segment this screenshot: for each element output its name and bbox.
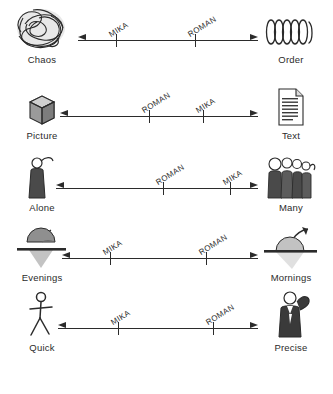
marker-label-mika: MIKA bbox=[101, 238, 124, 257]
marker-label-roman: ROMAN bbox=[154, 163, 186, 187]
document-page-icon bbox=[251, 82, 331, 128]
marker-label-roman: ROMAN bbox=[197, 233, 229, 257]
pole-right-label: Precise bbox=[251, 342, 331, 353]
marker-label-roman: ROMAN bbox=[140, 91, 172, 115]
pole-right: Precise bbox=[251, 294, 331, 353]
diagram-canvas: Chaos MIKA ROMAN bbox=[0, 0, 333, 394]
marker-label-mika: MIKA bbox=[109, 308, 132, 327]
pole-right-label: Text bbox=[251, 130, 331, 141]
marker-label-mika: MIKA bbox=[221, 168, 244, 187]
crowd-of-people-icon bbox=[251, 154, 331, 200]
pole-right: Text bbox=[251, 82, 331, 141]
pole-right: Many bbox=[251, 154, 331, 213]
marker-label-roman: ROMAN bbox=[204, 303, 236, 327]
spectrum-row: Evenings MIKA ROMAN Mornings bbox=[0, 218, 333, 292]
pole-right-label: Many bbox=[251, 202, 331, 213]
pole-right: Order bbox=[251, 6, 331, 65]
spectrum-row: Chaos MIKA ROMAN bbox=[0, 0, 333, 74]
marker-label-mika: MIKA bbox=[194, 96, 217, 115]
person-in-suit-icon bbox=[251, 294, 331, 340]
pole-right: Mornings bbox=[251, 224, 331, 283]
spectrum-row: Picture ROMAN MIKA bbox=[0, 76, 333, 150]
spectrum-row: Quick MIKA ROMAN bbox=[0, 288, 333, 362]
marker-label-mika: MIKA bbox=[107, 20, 130, 39]
pole-right-label: Mornings bbox=[251, 272, 331, 283]
marker-label-roman: ROMAN bbox=[186, 15, 218, 39]
rising-sun-icon bbox=[251, 224, 331, 270]
coil-spring-icon bbox=[251, 6, 331, 52]
spectrum-row: Alone ROMAN MIKA bbox=[0, 148, 333, 222]
pole-right-label: Order bbox=[251, 54, 331, 65]
